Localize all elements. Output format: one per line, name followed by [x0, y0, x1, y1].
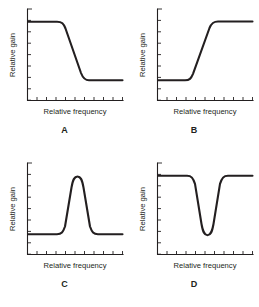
panel-d: Relative frequency Relative gain D: [130, 154, 259, 307]
x-ticks-c: [28, 250, 123, 255]
chart-b: Relative frequency Relative gain: [130, 0, 259, 127]
x-ticks-d: [157, 250, 252, 255]
x-axis-label-c: Relative frequency: [44, 261, 107, 270]
response-curve-d: [158, 175, 253, 234]
y-axis-label-b: Relative gain: [138, 33, 147, 77]
plot-area-b: Relative frequency Relative gain: [130, 0, 259, 127]
axis-lines-b: [157, 9, 253, 101]
response-curve-b: [158, 22, 253, 81]
x-axis-label-b: Relative frequency: [173, 107, 236, 116]
axes-b: [157, 9, 253, 101]
panel-letter-d: D: [130, 278, 259, 290]
x-axis-label-a: Relative frequency: [44, 107, 107, 116]
panel-letter-a: A: [0, 124, 129, 136]
x-ticks-b: [157, 96, 252, 101]
x-ticks-a: [28, 96, 123, 101]
plot-area-d: Relative frequency Relative gain: [130, 154, 259, 281]
plot-area-a: Relative frequency Relative gain: [0, 0, 129, 127]
panel-c: Relative frequency Relative gain C: [0, 154, 129, 307]
panel-a: Relative frequency Relative gain A: [0, 0, 129, 153]
plot-area-c: Relative frequency Relative gain: [0, 154, 129, 281]
y-ticks-b: [157, 9, 162, 100]
panel-b: Relative frequency Relative gain B: [130, 0, 259, 153]
filter-response-figure: Relative frequency Relative gain A: [0, 0, 259, 307]
chart-d: Relative frequency Relative gain: [130, 154, 259, 281]
chart-a: Relative frequency Relative gain: [0, 0, 129, 127]
chart-c: Relative frequency Relative gain: [0, 154, 129, 281]
y-axis-label-a: Relative gain: [8, 33, 17, 77]
y-axis-label-c: Relative gain: [8, 187, 17, 231]
response-curve-c: [28, 176, 123, 234]
y-ticks-c: [28, 163, 33, 254]
x-axis-label-d: Relative frequency: [173, 261, 236, 270]
y-axis-label-d: Relative gain: [138, 187, 147, 231]
response-curve-a: [28, 22, 123, 81]
panel-letter-c: C: [0, 278, 129, 290]
panel-letter-b: B: [130, 124, 259, 136]
